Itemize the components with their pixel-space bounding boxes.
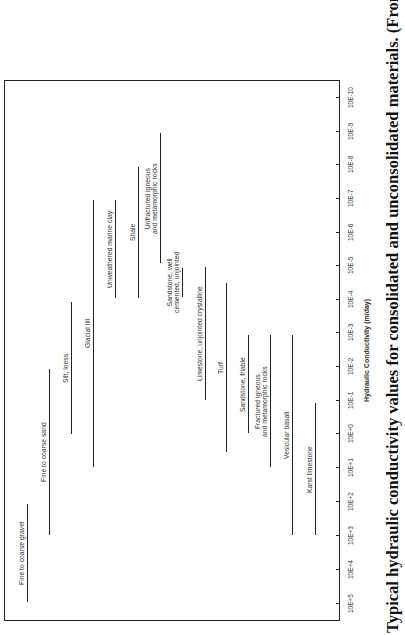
bar-label: Silt, loess [62, 353, 69, 382]
axis-title: Hydraulic Conductivity (m/day) [363, 298, 370, 401]
bar-label: Unweathered marine clay [106, 210, 113, 287]
bar-label: Limestone, unjointed crystalline [196, 286, 203, 381]
range-bar [160, 133, 161, 263]
bar-label-line: Glacial till [84, 319, 91, 348]
bar-label-line: Fine to coarse gravel [18, 521, 25, 584]
bar-label: Fine to coarse gravel [18, 521, 25, 584]
tick-label: 10E-5 [347, 256, 354, 273]
axis-tick [336, 232, 340, 233]
tick-label: 10E-4 [347, 290, 354, 307]
range-bar [315, 403, 316, 535]
tick-label: 10E-6 [347, 223, 354, 240]
axis-tick [336, 164, 340, 165]
range-bar [138, 167, 139, 298]
bar-label-line: Sandstone, well [166, 252, 173, 313]
bar-label: Glacial till [84, 319, 91, 348]
range-bar [182, 268, 183, 297]
range-bar [205, 267, 206, 400]
bar-label-line: Shale [129, 224, 136, 241]
bar-label: Sandstone, wellcemented, unjointed [166, 252, 180, 313]
axis-tick [336, 332, 340, 333]
x-axis-line [339, 80, 340, 621]
bar-label-line: Unweathered marine clay [106, 210, 113, 287]
tick-label: 10E-10 [347, 87, 354, 108]
tick-label: 10E+2 [347, 492, 354, 511]
axis-tick [336, 265, 340, 266]
tick-label: 10E+1 [347, 458, 354, 477]
tick-label: 10E-8 [347, 155, 354, 172]
tick-label: 10E-9 [347, 122, 354, 139]
range-bar [93, 200, 94, 467]
bar-label-line: Vesicular basalt [283, 411, 290, 459]
axis-tick [336, 131, 340, 132]
axis-tick [336, 569, 340, 570]
axis-tick [336, 501, 340, 502]
bar-label-line: Unfractured igneous [144, 163, 151, 234]
bar-label: Turf [217, 362, 224, 374]
tick-label: 10E-3 [347, 323, 354, 340]
tick-label: 10E+3 [347, 526, 354, 545]
bar-label: Unfractured igneousand metamorphic rocks [144, 163, 158, 234]
tick-label: 10E+0 [347, 424, 354, 443]
bar-label: Fine to coarse sand [40, 422, 47, 482]
range-bar [270, 335, 271, 467]
bar-label-line: cemented, unjointed [173, 252, 180, 313]
tick-label: 10E-2 [347, 357, 354, 374]
tick-label: 10E-1 [347, 391, 354, 408]
bar-label-line: Sandstone, friable [239, 357, 246, 412]
bar-label: Sandstone, friable [239, 357, 246, 412]
axis-tick [336, 535, 340, 536]
range-bar [71, 302, 72, 434]
range-bar [115, 200, 116, 298]
axis-tick [336, 400, 340, 401]
bar-label-line: Fractured igneous [254, 366, 261, 437]
bar-label-line: Turf [217, 362, 224, 374]
bar-label-line: Silt, loess [62, 353, 69, 382]
plot-frame [4, 80, 340, 621]
bar-label-line: Karst limestone [306, 446, 313, 493]
tick-label: 10E+4 [347, 560, 354, 579]
axis-tick [336, 603, 340, 604]
range-bar [49, 369, 50, 535]
axis-tick [336, 97, 340, 98]
tick-label: 10E+5 [347, 594, 354, 613]
bar-label: Vesicular basalt [283, 411, 290, 459]
range-bar [292, 335, 293, 535]
axis-tick [336, 366, 340, 367]
bar-label: Shale [129, 224, 136, 241]
bar-label: Fractured igneousand metamorphic rocks [254, 366, 268, 437]
range-bar [248, 335, 249, 433]
axis-tick [336, 467, 340, 468]
axis-tick [336, 299, 340, 300]
axis-tick [336, 433, 340, 434]
bar-label-line: Fine to coarse sand [40, 422, 47, 482]
figure-caption: Typical hydraulic conductivity values fo… [383, 0, 403, 633]
axis-tick [336, 198, 340, 199]
tick-label: 10E-7 [347, 189, 354, 206]
bar-label-line: and metamorphic rocks [151, 163, 158, 234]
bar-label-line: Limestone, unjointed crystalline [196, 286, 203, 381]
bar-label: Karst limestone [306, 446, 313, 493]
bar-label-line: and metamorphic rocks [261, 366, 268, 437]
range-bar [226, 283, 227, 452]
range-bar [27, 504, 28, 602]
